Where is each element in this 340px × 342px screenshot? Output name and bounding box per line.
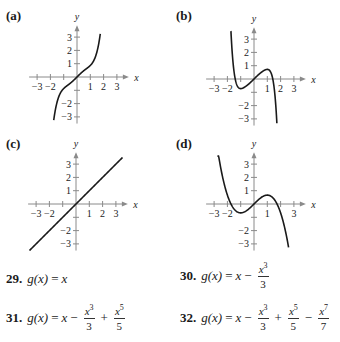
svg-text:−2: −2 [238, 100, 249, 111]
svg-text:−3: −3 [209, 83, 220, 94]
svg-text:−3: −3 [60, 238, 71, 249]
svg-text:3: 3 [291, 83, 296, 94]
svg-text:y: y [74, 11, 80, 22]
svg-text:1: 1 [67, 58, 72, 69]
plot: −3−2123321−2−3xy [170, 0, 340, 128]
graph-a: (a)−3−2123321−2−3xy [0, 0, 170, 128]
fraction: x33 [84, 304, 95, 332]
graph-b: (b)−3−2123321−2−3xy [170, 0, 340, 128]
fraction: x77 [318, 304, 329, 332]
svg-text:3: 3 [244, 159, 249, 170]
plot: −3−213321−2−3xy [170, 128, 340, 256]
fraction: x33 [258, 262, 269, 290]
svg-text:−2: −2 [60, 225, 71, 236]
svg-text:−3: −3 [61, 111, 72, 122]
svg-text:3: 3 [114, 81, 119, 92]
svg-text:−2: −2 [44, 208, 55, 219]
svg-text:2: 2 [66, 172, 71, 183]
svg-text:−2: −2 [61, 98, 72, 109]
y-arrow-icon [75, 25, 80, 31]
svg-text:1: 1 [87, 208, 92, 219]
svg-text:−2: −2 [222, 208, 233, 219]
x-arrow-icon [300, 202, 306, 207]
svg-text:1: 1 [88, 81, 93, 92]
svg-text:x: x [310, 74, 316, 85]
svg-text:3: 3 [291, 208, 296, 219]
svg-text:−3: −3 [209, 208, 220, 219]
svg-text:y: y [251, 138, 257, 149]
svg-text:3: 3 [113, 208, 118, 219]
exercise-29: 29. g(x) = x [6, 271, 67, 287]
svg-text:−3: −3 [238, 113, 249, 124]
svg-text:3: 3 [67, 32, 72, 43]
x-arrow-icon [300, 77, 306, 82]
svg-text:1: 1 [244, 185, 249, 196]
svg-text:1: 1 [265, 83, 270, 94]
y-arrow-icon [252, 152, 257, 158]
graph-d: (d)−3−213321−2−3xy [170, 128, 340, 256]
svg-text:x: x [133, 72, 139, 83]
exercise-30: 30. g(x) = x − x33 [180, 262, 272, 290]
svg-text:1: 1 [244, 60, 249, 71]
y-arrow-icon [74, 152, 79, 158]
plot: −3−2123321−2−3xy [0, 128, 170, 256]
svg-text:3: 3 [66, 159, 71, 170]
svg-text:−2: −2 [222, 83, 233, 94]
svg-text:2: 2 [244, 47, 249, 58]
y-arrow-icon [252, 27, 257, 33]
svg-text:y: y [251, 13, 257, 24]
svg-text:−2: −2 [45, 81, 56, 92]
svg-text:2: 2 [278, 83, 283, 94]
svg-text:1: 1 [265, 208, 270, 219]
svg-text:−2: −2 [238, 225, 249, 236]
svg-text:1: 1 [66, 185, 71, 196]
x-arrow-icon [123, 75, 129, 80]
svg-text:2: 2 [244, 172, 249, 183]
function-curve [217, 156, 288, 247]
exercise-31: 31. g(x) = x − x33 + x55 [6, 304, 128, 332]
svg-text:−3: −3 [32, 81, 43, 92]
fraction: x33 [258, 304, 269, 332]
x-arrow-icon [122, 202, 128, 207]
svg-text:−3: −3 [238, 238, 249, 249]
svg-text:3: 3 [244, 34, 249, 45]
fraction: x55 [288, 304, 299, 332]
svg-text:2: 2 [100, 208, 105, 219]
svg-text:2: 2 [101, 81, 106, 92]
plot: −3−2123321−2−3xy [0, 0, 170, 128]
svg-text:x: x [132, 199, 138, 210]
svg-text:y: y [73, 138, 79, 149]
svg-text:−3: −3 [31, 208, 42, 219]
svg-text:2: 2 [67, 45, 72, 56]
fraction: x55 [114, 304, 125, 332]
graph-c: (c)−3−2123321−2−3xy [0, 128, 170, 256]
exercise-32: 32. g(x) = x − x33 + x55 − x77 [180, 304, 332, 332]
svg-text:x: x [310, 199, 316, 210]
